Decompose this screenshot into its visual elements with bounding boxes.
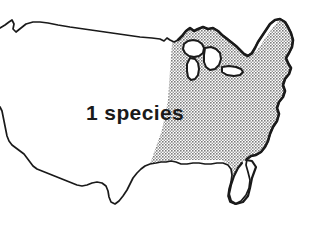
- species-distribution-figure: 1 species: [0, 0, 310, 226]
- species-count-label: 1 species: [86, 101, 184, 125]
